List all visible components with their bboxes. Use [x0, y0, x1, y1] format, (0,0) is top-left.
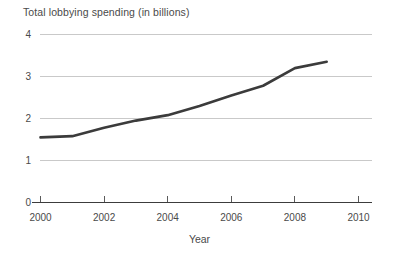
chart-container: Total lobbying spending (in billions) 4 … [0, 0, 399, 258]
x-tick-label-2000: 2000 [29, 212, 52, 223]
y-tick-label-0: 0 [25, 197, 31, 208]
x-tick-label-2006: 2006 [220, 212, 243, 223]
data-series-line [41, 62, 327, 138]
y-tick-label-3: 3 [25, 71, 31, 82]
x-tick-label-2008: 2008 [284, 212, 307, 223]
x-tick-label-2010: 2010 [347, 212, 370, 223]
x-tick-label-2002: 2002 [93, 212, 116, 223]
y-tick-label-4: 4 [25, 29, 31, 40]
y-tick-label-2: 2 [25, 113, 31, 124]
x-axis-title: Year [0, 233, 399, 245]
y-tick-label-1: 1 [25, 155, 31, 166]
x-tick-label-2004: 2004 [157, 212, 180, 223]
chart-plot-area: 4 3 2 1 0 2000 2002 2004 2006 2008 2010 [0, 0, 399, 258]
